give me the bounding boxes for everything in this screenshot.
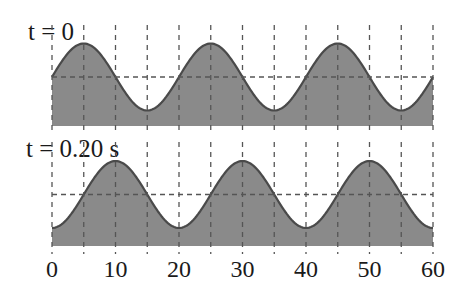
x-tick-label: 20: [167, 256, 191, 282]
x-tick-label: 50: [358, 256, 382, 282]
x-tick-label: 40: [294, 256, 318, 282]
wave-chart: t = 0 t = 0.20 s 0102030405060: [0, 0, 461, 295]
x-tick-label: 30: [231, 256, 255, 282]
x-tick-label: 0: [46, 256, 58, 282]
x-tick-label: 60: [421, 256, 445, 282]
x-tick-label: 10: [104, 256, 128, 282]
panel-label-t020: t = 0.20 s: [26, 135, 119, 162]
panel-label-t0: t = 0: [28, 18, 74, 45]
x-axis-ticks: 0102030405060: [46, 256, 445, 282]
